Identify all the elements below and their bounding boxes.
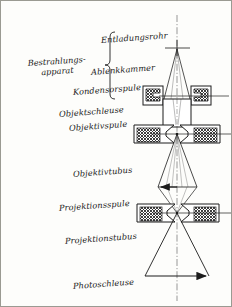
electron-microscope-schematic: [1, 1, 232, 307]
condenser-coil-right: [191, 86, 211, 105]
condenser-coil-left: [143, 86, 163, 105]
specimen-airlock-chamber: [163, 99, 191, 127]
diagram-canvas: Bestrahlungs- apparat Entladungsrohr Abl…: [0, 0, 232, 307]
